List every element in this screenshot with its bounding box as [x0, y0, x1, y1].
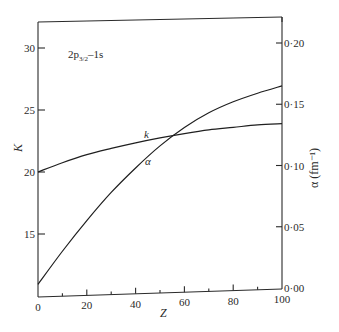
y-right-tick-label: 0·15 — [284, 98, 305, 110]
x-axis-label: Z — [160, 306, 167, 320]
y-left-tick-label: 20 — [24, 166, 36, 178]
y-left-tick-label: 30 — [24, 42, 36, 54]
transition-annotation: 2p3/2–1s — [68, 48, 103, 63]
y-right-axis-label: α (fm⁻¹) — [307, 148, 321, 188]
x-tick-label: 0 — [35, 301, 41, 313]
x-tick-label: 100 — [274, 293, 291, 305]
y-right-tick-label: 0·00 — [284, 282, 305, 294]
chart: 020406080100152025300·000·050·100·150·20… — [0, 0, 339, 332]
y-right-tick-label: 0·05 — [284, 221, 305, 233]
y-left-tick-label: 25 — [24, 104, 36, 116]
series-line-alpha — [38, 86, 282, 284]
y-left-axis-label: K — [11, 143, 25, 153]
y-right-tick-label: 0·20 — [284, 37, 305, 49]
series-label-alpha: α — [145, 155, 151, 167]
x-tick-label: 20 — [81, 299, 93, 311]
series-label-k: k — [144, 128, 150, 140]
x-tick-label: 40 — [130, 298, 142, 310]
x-tick-label: 80 — [228, 295, 240, 307]
top-border — [38, 17, 282, 22]
y-left-tick-label: 15 — [24, 228, 36, 240]
x-tick-label: 60 — [179, 296, 191, 308]
series-line-k — [38, 124, 282, 172]
y-right-tick-label: 0·10 — [284, 160, 305, 172]
